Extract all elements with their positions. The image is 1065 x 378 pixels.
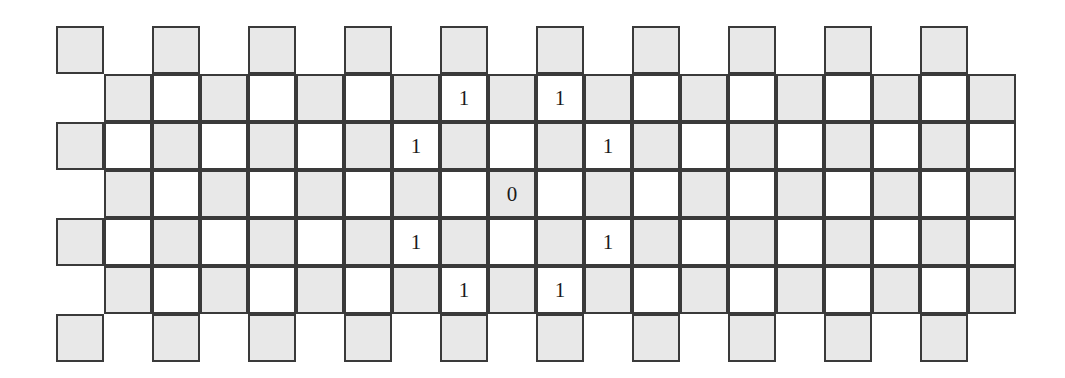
grid-cell-r4-c1 — [104, 218, 152, 266]
grid-cell-r4-c4 — [248, 218, 296, 266]
grid-cell-r4-c7: 1 — [392, 218, 440, 266]
grid-cell-r3-c0 — [104, 170, 152, 218]
grid-cell-r2-c13 — [680, 122, 728, 170]
grid-cell-r5-c12 — [680, 266, 728, 314]
grid-cell-r0-c4 — [248, 26, 296, 74]
grid-cell-r4-c15 — [776, 218, 824, 266]
grid-cell-r2-c11: 1 — [584, 122, 632, 170]
checkerboard-grid-figure: 111101111 — [0, 0, 1065, 378]
grid-cell-r4-c0 — [56, 218, 104, 266]
cell-label: 1 — [555, 88, 566, 109]
grid-cell-r0-c16 — [824, 26, 872, 74]
grid-cell-r3-c13 — [728, 170, 776, 218]
grid-cell-r1-c6 — [392, 74, 440, 122]
grid-cell-r5-c3 — [248, 266, 296, 314]
grid-cell-r4-c19 — [968, 218, 1016, 266]
grid-cell-r6-c2 — [152, 314, 200, 362]
grid-cell-r1-c16 — [872, 74, 920, 122]
grid-cell-r0-c0 — [56, 26, 104, 74]
grid-cell-r0-c2 — [152, 26, 200, 74]
grid-cell-r0-c14 — [728, 26, 776, 74]
grid-cell-r1-c10 — [584, 74, 632, 122]
grid-cell-r2-c6 — [344, 122, 392, 170]
grid-cell-r0-c8 — [440, 26, 488, 74]
grid-cell-r1-c12 — [680, 74, 728, 122]
grid-cell-r0-c18 — [920, 26, 968, 74]
grid-cell-r1-c13 — [728, 74, 776, 122]
grid-cell-r0-c12 — [632, 26, 680, 74]
cell-label: 1 — [411, 232, 422, 253]
grid-cell-r6-c14 — [728, 314, 776, 362]
grid-cell-r2-c0 — [56, 122, 104, 170]
grid-cell-r5-c9: 1 — [536, 266, 584, 314]
grid-cell-r5-c6 — [392, 266, 440, 314]
grid-cell-r2-c1 — [104, 122, 152, 170]
grid-cell-r4-c16 — [824, 218, 872, 266]
grid-cell-r3-c12 — [680, 170, 728, 218]
grid-cell-r5-c17 — [920, 266, 968, 314]
grid-cell-r1-c7: 1 — [440, 74, 488, 122]
grid-cell-r4-c18 — [920, 218, 968, 266]
grid-cell-r2-c5 — [296, 122, 344, 170]
grid-cell-r5-c5 — [344, 266, 392, 314]
grid-cell-r3-c10 — [584, 170, 632, 218]
grid-cell-r5-c14 — [776, 266, 824, 314]
grid-cell-r2-c10 — [536, 122, 584, 170]
grid-cell-r1-c2 — [200, 74, 248, 122]
cell-label: 1 — [411, 136, 422, 157]
grid-cell-r1-c15 — [824, 74, 872, 122]
grid-cell-r5-c7: 1 — [440, 266, 488, 314]
grid-cell-r4-c2 — [152, 218, 200, 266]
grid-cell-r1-c18 — [968, 74, 1016, 122]
grid-cell-r1-c17 — [920, 74, 968, 122]
grid-cell-r3-c2 — [200, 170, 248, 218]
grid-cell-r2-c4 — [248, 122, 296, 170]
cell-label: 1 — [603, 136, 614, 157]
cell-label: 0 — [507, 184, 518, 205]
grid-cell-r2-c19 — [968, 122, 1016, 170]
grid-cell-r3-c8: 0 — [488, 170, 536, 218]
grid-cell-r2-c9 — [488, 122, 536, 170]
grid-cell-r5-c2 — [200, 266, 248, 314]
grid-cell-r3-c14 — [776, 170, 824, 218]
grid-cell-r1-c5 — [344, 74, 392, 122]
grid-cell-r5-c1 — [152, 266, 200, 314]
grid-cell-r4-c12 — [632, 218, 680, 266]
grid-cell-r6-c4 — [248, 314, 296, 362]
grid-cell-r4-c3 — [200, 218, 248, 266]
grid-cell-r1-c9: 1 — [536, 74, 584, 122]
grid-cell-r2-c2 — [152, 122, 200, 170]
grid-cell-r3-c1 — [152, 170, 200, 218]
grid-cell-r2-c15 — [776, 122, 824, 170]
grid-cell-r6-c6 — [344, 314, 392, 362]
grid-cell-r4-c9 — [488, 218, 536, 266]
grid-cell-r5-c8 — [488, 266, 536, 314]
grid-cell-r3-c3 — [248, 170, 296, 218]
grid-cell-r1-c14 — [776, 74, 824, 122]
grid-cell-r3-c17 — [920, 170, 968, 218]
grid-cell-r4-c11: 1 — [584, 218, 632, 266]
grid-cell-r6-c16 — [824, 314, 872, 362]
grid-cell-r2-c12 — [632, 122, 680, 170]
grid-cell-r5-c0 — [104, 266, 152, 314]
grid-cell-r0-c10 — [536, 26, 584, 74]
grid-cell-r6-c0 — [56, 314, 104, 362]
grid-cell-r2-c16 — [824, 122, 872, 170]
grid-cell-r3-c15 — [824, 170, 872, 218]
grid-cell-r5-c4 — [296, 266, 344, 314]
grid-cell-r3-c9 — [536, 170, 584, 218]
cell-label: 1 — [459, 280, 470, 301]
grid-cell-r0-c6 — [344, 26, 392, 74]
grid-cell-r4-c13 — [680, 218, 728, 266]
grid-cell-r2-c14 — [728, 122, 776, 170]
grid-cell-r5-c11 — [632, 266, 680, 314]
grid-cell-r2-c18 — [920, 122, 968, 170]
grid-cell-r3-c4 — [296, 170, 344, 218]
grid-cell-r4-c6 — [344, 218, 392, 266]
grid-cell-r5-c15 — [824, 266, 872, 314]
grid-cell-r4-c17 — [872, 218, 920, 266]
grid-cell-r1-c11 — [632, 74, 680, 122]
grid-cell-r1-c4 — [296, 74, 344, 122]
grid-cell-r2-c3 — [200, 122, 248, 170]
grid-cell-r1-c0 — [104, 74, 152, 122]
